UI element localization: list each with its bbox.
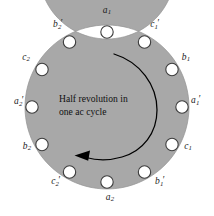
slot-label-a2: a2 [106, 193, 114, 204]
slot-hole-a1-prime [176, 101, 188, 113]
caption-line-1: Half revolution in [59, 93, 159, 106]
slot-label-c2: c2 [22, 53, 30, 64]
slot-hole-c1-prime [138, 36, 150, 48]
slot-label-c2-prime: c2′ [51, 176, 60, 188]
caption-line-2: one ac cycle [59, 106, 159, 119]
slot-label-a1-prime: a1′ [191, 95, 201, 107]
slot-label-b2-prime: b2′ [53, 19, 63, 31]
center-caption: Half revolution in one ac cycle [55, 93, 159, 118]
slot-label-b2: b2 [23, 142, 31, 153]
slot-hole-b2 [36, 138, 48, 150]
stator-winding-figure: Half revolution in one ac cycle a1 c1′ b… [0, 0, 214, 216]
slot-hole-c2 [36, 63, 48, 75]
slot-label-a2-prime: a2′ [14, 96, 24, 108]
slot-hole-b1 [166, 63, 178, 75]
slot-label-b1-prime: b1′ [155, 176, 165, 188]
slot-hole-c2-prime [63, 166, 75, 178]
slot-label-c1: c1 [184, 142, 192, 153]
slot-hole-b2-prime [63, 36, 75, 48]
slot-hole-b1-prime [138, 166, 150, 178]
slot-hole-c1 [166, 138, 178, 150]
slot-label-a1: a1 [103, 6, 111, 17]
slot-hole-a1 [101, 26, 113, 38]
slot-hole-a2 [101, 176, 113, 188]
slot-label-c1-prime: c1′ [150, 19, 159, 31]
slot-hole-a2-prime [26, 101, 38, 113]
slot-label-b1: b1 [182, 53, 190, 64]
